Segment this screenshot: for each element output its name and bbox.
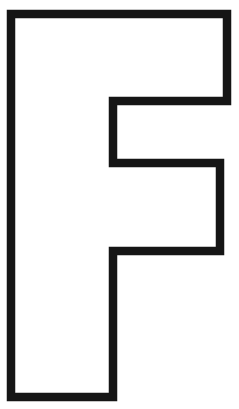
drawing-canvas bbox=[0, 0, 239, 409]
letter-f-outline-icon bbox=[0, 0, 239, 409]
